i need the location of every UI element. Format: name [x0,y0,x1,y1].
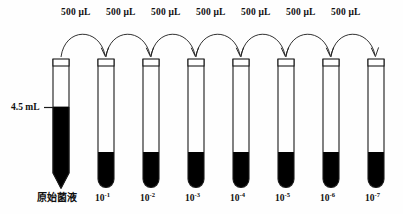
tube-dilution-2 [143,59,159,188]
dilution-exponent-4: -4 [240,191,246,198]
transfer-arrow-4 [196,34,244,57]
dilution-base-4: 10 [230,193,240,203]
tube-label-dilution-1: 10-1 [95,194,110,204]
diagram-canvas [0,0,403,214]
tube-dilution-6 [323,59,339,188]
transfer-arrow-3 [151,34,199,57]
tube-dilution-3 [188,59,204,188]
transfer-arrow-7 [331,34,379,57]
volume-marker-label: 4.5 mL [11,103,40,113]
transfer-arrow-2 [106,34,154,57]
volume-label-7: 500 μL [331,8,361,18]
dilution-base-5: 10 [275,193,285,203]
dilution-base-3: 10 [185,193,195,203]
dilution-exponent-2: -2 [150,191,156,198]
dilution-exponent-3: -3 [195,191,201,198]
transfer-arrow-5 [241,34,289,57]
tube-dilution-1 [98,59,114,188]
dilution-exponent-1: -1 [105,191,111,198]
volume-label-6: 500 μL [286,8,316,18]
tube-label-dilution-4: 10-4 [230,194,245,204]
tube-label-original: 原始菌液 [37,193,77,203]
volume-label-2: 500 μL [106,8,136,18]
transfer-arrow-1 [61,34,109,57]
tube-label-dilution-5: 10-5 [275,194,290,204]
tube-dilution-4 [233,59,249,188]
serial-dilution-figure: 500 μL 500 μL 500 μL 500 μL 500 μL 500 μ… [0,0,403,214]
transfer-arrow-group [61,34,379,57]
volume-label-4: 500 μL [196,8,226,18]
tube-dilution-5 [278,59,294,188]
dilution-exponent-5: -5 [285,191,291,198]
volume-label-1: 500 μL [61,8,91,18]
dilution-exponent-7: -7 [375,191,381,198]
tube-label-dilution-2: 10-2 [140,194,155,204]
dilution-base-7: 10 [365,193,375,203]
dilution-base-6: 10 [320,193,330,203]
dilution-base-2: 10 [140,193,150,203]
tube-label-dilution-7: 10-7 [365,194,380,204]
volume-label-5: 500 μL [241,8,271,18]
tube-label-dilution-6: 10-6 [320,194,335,204]
dilution-exponent-6: -6 [330,191,336,198]
dilution-base-1: 10 [95,193,105,203]
tube-label-dilution-3: 10-3 [185,194,200,204]
tube-original [53,59,69,189]
tube-dilution-7 [368,59,384,188]
volume-label-3: 500 μL [151,8,181,18]
transfer-arrow-6 [286,34,334,57]
